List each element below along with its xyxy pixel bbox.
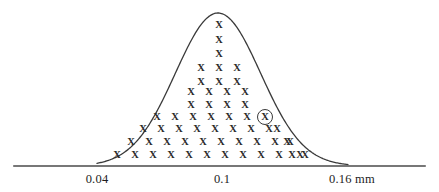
x-mark: X (221, 150, 229, 161)
x-mark: X (247, 124, 255, 135)
x-mark: X (181, 137, 189, 148)
x-mark: X (163, 137, 171, 148)
x-mark: X (215, 35, 223, 46)
x-mark: X (243, 112, 251, 123)
x-mark: X (271, 137, 279, 148)
x-mark: X (223, 87, 231, 98)
x-mark: X (139, 124, 147, 135)
x-mark: X (253, 137, 261, 148)
x-mark: X (113, 150, 121, 161)
x-mark: X (167, 150, 175, 161)
normal-curve-dot-plot-figure: XXXXXXXXXXXXXXXXXXXXXXXXXXXXXXXXXXXXXXXX… (0, 0, 439, 192)
x-mark: X (241, 100, 249, 111)
x-mark: X (235, 137, 243, 148)
x-mark: X (275, 150, 283, 161)
x-mark: X (288, 150, 296, 161)
axis-tick-label-0: 0.04 (86, 172, 109, 187)
x-mark: X (199, 137, 207, 148)
x-mark: X (257, 150, 265, 161)
x-mark: X (225, 112, 233, 123)
x-mark: X (171, 112, 179, 123)
x-mark: X (175, 124, 183, 135)
x-mark: X (215, 77, 223, 88)
x-mark: X (239, 150, 247, 161)
x-mark: X (215, 49, 223, 60)
x-mark: X (211, 124, 219, 135)
x-mark: X (189, 112, 197, 123)
x-mark: X (241, 87, 249, 98)
x-mark: X (205, 100, 213, 111)
x-mark: X (207, 112, 215, 123)
x-mark: X (233, 63, 241, 74)
x-mark: X (215, 20, 223, 31)
x-mark: X (301, 150, 309, 161)
axis-tick-label-2: 0.16 mm (329, 172, 375, 187)
x-mark: X (131, 150, 139, 161)
x-mark: X (233, 77, 241, 88)
x-mark: X (197, 63, 205, 74)
axis-tick-label-1: 0.1 (214, 172, 230, 187)
x-mark: X (229, 124, 237, 135)
x-mark: X (149, 150, 157, 161)
x-mark: X (203, 150, 211, 161)
x-mark: X (286, 137, 294, 148)
x-mark: X (187, 87, 195, 98)
x-mark: X (197, 77, 205, 88)
x-mark: X (205, 87, 213, 98)
x-mark: X (157, 124, 165, 135)
x-mark: X (145, 137, 153, 148)
x-mark: X (215, 63, 223, 74)
x-mark: X (185, 150, 193, 161)
x-mark: X (193, 124, 201, 135)
x-mark: X (153, 112, 161, 123)
x-mark: X (273, 124, 281, 135)
x-mark: X (187, 100, 195, 111)
x-mark: X (223, 100, 231, 111)
x-mark: X (217, 137, 225, 148)
x-mark: X (127, 137, 135, 148)
x-mark: X (265, 124, 273, 135)
